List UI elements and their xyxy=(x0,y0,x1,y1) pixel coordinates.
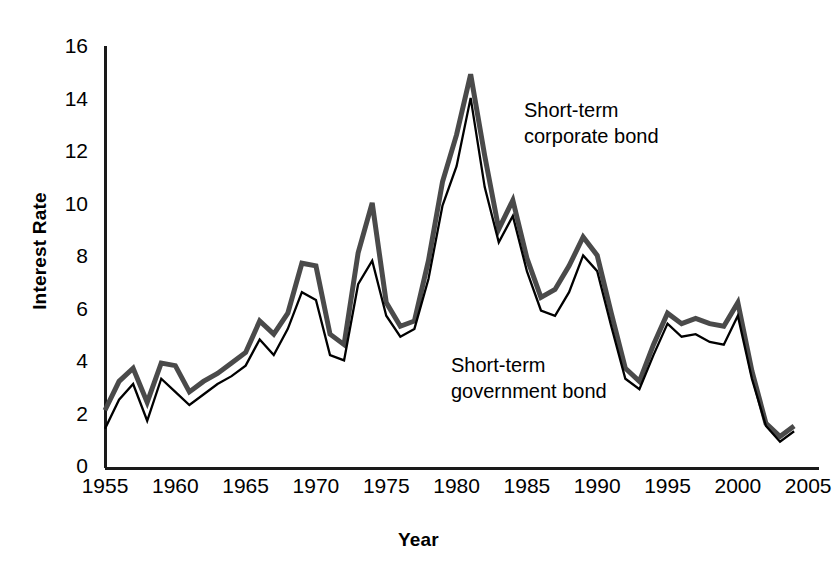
x-tick-2005: 2005 xyxy=(768,474,837,498)
y-tick-12: 12 xyxy=(48,139,88,163)
x-tick-2000: 2000 xyxy=(698,474,778,498)
series-line-short-term-corporate-bond xyxy=(105,74,794,436)
x-tick-1990: 1990 xyxy=(557,474,637,498)
annotation-short-term-corporate-bond: Short-term corporate bond xyxy=(524,97,659,150)
annotation-short-term-government-bond: Short-term government bond xyxy=(451,352,607,405)
x-tick-1975: 1975 xyxy=(346,474,426,498)
y-tick-6: 6 xyxy=(48,297,88,321)
interest-rate-line-chart: Interest Rate Year 0246810121416 1955196… xyxy=(0,0,837,577)
x-axis-title: Year xyxy=(0,529,837,551)
y-tick-4: 4 xyxy=(48,349,88,373)
x-tick-1970: 1970 xyxy=(276,474,356,498)
x-tick-1995: 1995 xyxy=(628,474,708,498)
x-tick-1985: 1985 xyxy=(487,474,567,498)
y-tick-14: 14 xyxy=(48,87,88,111)
x-tick-1980: 1980 xyxy=(417,474,497,498)
y-tick-8: 8 xyxy=(48,244,88,268)
series-line-short-term-government-bond xyxy=(105,98,794,442)
x-tick-1955: 1955 xyxy=(65,474,145,498)
data-series-layer xyxy=(105,74,794,442)
y-tick-10: 10 xyxy=(48,192,88,216)
x-tick-1965: 1965 xyxy=(206,474,286,498)
x-tick-1960: 1960 xyxy=(135,474,215,498)
y-tick-16: 16 xyxy=(48,34,88,58)
y-tick-2: 2 xyxy=(48,402,88,426)
